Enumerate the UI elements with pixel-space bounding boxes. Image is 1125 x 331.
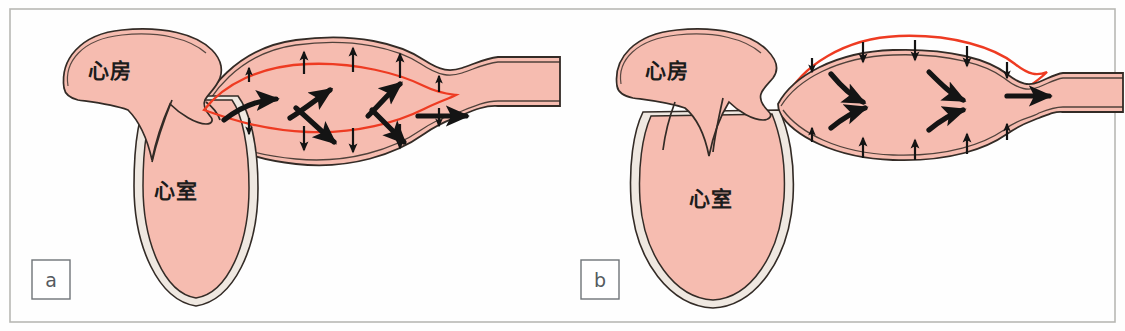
figure-container: 心房 心室 a: [0, 0, 1125, 331]
label-ventricle-b: 心室: [689, 187, 733, 211]
panel-a: 心房 心室 a: [0, 0, 562, 331]
label-ventricle-a: 心室: [154, 179, 198, 203]
heart-b: [617, 29, 794, 308]
label-atrium-b: 心房: [645, 59, 689, 83]
panel-tag-a: a: [32, 260, 70, 299]
label-atrium-a: 心房: [88, 59, 132, 83]
panel-tag-b-text: b: [594, 269, 606, 291]
aorta-b: [778, 50, 1123, 160]
panel-tag-a-text: a: [45, 269, 57, 291]
panel-b: 心房 心室 b: [563, 0, 1125, 331]
panel-tag-b: b: [581, 260, 619, 299]
